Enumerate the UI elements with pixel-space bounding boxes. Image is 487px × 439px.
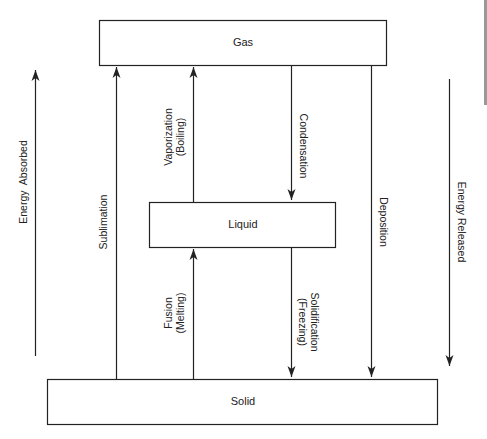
energy-released-arrow: Energy Released (446, 79, 469, 366)
gas-box: Gas (100, 21, 387, 66)
liquid-label: Liquid (228, 218, 257, 230)
condensation-arrow: Condensation (288, 65, 311, 200)
fusion-label: Fusion (162, 297, 174, 329)
vaporization-sublabel: (Boiling) (174, 118, 186, 157)
gas-label: Gas (233, 36, 254, 48)
energy-released-label: Energy Released (456, 182, 468, 263)
deposition-label: Deposition (378, 197, 390, 247)
liquid-box: Liquid (150, 203, 336, 248)
energy-absorbed-label: Energy Absorbed (17, 140, 29, 224)
condensation-label: Condensation (298, 114, 310, 179)
solid-label: Solid (231, 395, 255, 407)
vaporization-label: Vaporization (162, 108, 174, 166)
phase-diagram: Gas Liquid Solid Energy Absorbed Sublima… (0, 0, 487, 439)
fusion-arrow: Fusion (Melting) (162, 249, 198, 379)
vaporization-arrow: Vaporization (Boiling) (162, 67, 198, 202)
solid-box: Solid (48, 380, 438, 425)
deposition-arrow: Deposition (368, 65, 391, 377)
fusion-sublabel: (Melting) (174, 293, 186, 334)
energy-absorbed-arrow: Energy Absorbed (17, 70, 40, 356)
sublimation-arrow: Sublimation (97, 67, 121, 379)
solidification-label: Solidification (309, 293, 321, 352)
solidification-arrow: Solidification (Freezing) (288, 247, 322, 377)
sublimation-label: Sublimation (97, 194, 109, 249)
solidification-sublabel: (Freezing) (297, 298, 309, 346)
